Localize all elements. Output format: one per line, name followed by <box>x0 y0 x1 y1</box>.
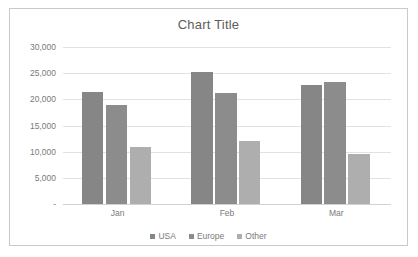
y-axis-tick-label: - <box>53 199 56 209</box>
chart-legend[interactable]: USAEuropeOther <box>10 231 407 241</box>
y-axis-tick-label: 30,000 <box>30 42 56 52</box>
bar-usa-jan[interactable] <box>82 92 103 204</box>
y-axis-tick-label: 25,000 <box>30 68 56 78</box>
legend-item-europe[interactable]: Europe <box>189 231 224 241</box>
bar-europe-feb[interactable] <box>215 93 236 204</box>
y-axis-tick-label: 15,000 <box>30 121 56 131</box>
legend-label: USA <box>158 231 175 241</box>
legend-swatch-icon <box>237 234 242 239</box>
gridline: 30,000 <box>63 47 391 48</box>
bar-other-mar[interactable] <box>348 154 369 204</box>
legend-label: Other <box>245 231 266 241</box>
chart-container[interactable]: Chart Title 30,00025,00020,00015,00010,0… <box>9 8 408 246</box>
bar-europe-mar[interactable] <box>324 82 345 204</box>
legend-swatch-icon <box>150 234 155 239</box>
category-label-feb: Feb <box>220 208 235 218</box>
bar-other-jan[interactable] <box>130 147 151 204</box>
legend-label: Europe <box>197 231 224 241</box>
axis-baseline: - <box>63 204 391 205</box>
legend-swatch-icon <box>189 234 194 239</box>
y-axis-tick-label: 20,000 <box>30 94 56 104</box>
category-axis: JanFebMar <box>63 208 391 224</box>
chart-title: Chart Title <box>10 17 407 32</box>
category-label-mar: Mar <box>329 208 344 218</box>
bar-usa-feb[interactable] <box>191 72 212 204</box>
bar-usa-mar[interactable] <box>301 85 322 204</box>
bar-europe-jan[interactable] <box>106 105 127 204</box>
gridline: 25,000 <box>63 73 391 74</box>
legend-item-usa[interactable]: USA <box>150 231 175 241</box>
bar-other-feb[interactable] <box>239 141 260 204</box>
plot-area: 30,00025,00020,00015,00010,0005,000- <box>63 47 391 204</box>
y-axis-tick-label: 10,000 <box>30 147 56 157</box>
legend-item-other[interactable]: Other <box>237 231 266 241</box>
y-axis-tick-label: 5,000 <box>35 173 56 183</box>
category-label-jan: Jan <box>111 208 125 218</box>
